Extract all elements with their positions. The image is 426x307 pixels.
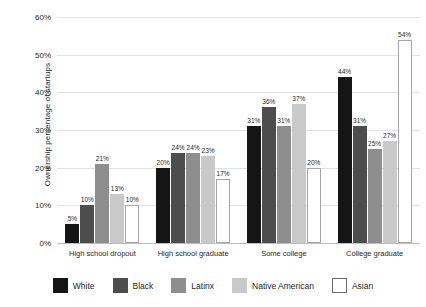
bar[interactable] [307,168,321,243]
bar-value-label: 24% [187,145,200,152]
bar-slot: 20% [156,17,170,243]
bar-value-label: 13% [111,186,124,193]
bar-slot: 31% [277,17,291,243]
legend-item[interactable]: Black [113,278,154,293]
bar-value-label: 31% [247,118,260,125]
bar-value-label: 36% [262,99,275,106]
x-category-label: College graduate [346,249,403,258]
legend-item[interactable]: Native American [232,278,314,293]
bar-value-label: 31% [277,118,290,125]
x-category-label: High school dropout [69,249,136,258]
bar-slot: 13% [110,17,124,243]
chart-legend: WhiteBlackLatinxNative AmericanAsian [0,278,426,293]
bar-value-label: 5% [68,216,77,223]
bar-slot: 17% [216,17,230,243]
y-tick-label: 50% [35,50,51,59]
bar-slot: 21% [95,17,109,243]
bar-slot: 20% [307,17,321,243]
bar-slot: 44% [338,17,352,243]
legend-label: Black [133,281,154,291]
x-category-label: Some college [261,249,306,258]
bar-value-label: 21% [96,156,109,163]
bar[interactable] [292,104,306,243]
bar[interactable] [125,205,139,243]
bar-value-label: 24% [172,145,185,152]
legend-swatch [113,278,128,293]
bar[interactable] [80,205,94,243]
bar-value-label: 20% [307,160,320,167]
legend-label: Latinx [191,281,214,291]
bar[interactable] [65,224,79,243]
bar[interactable] [247,126,261,243]
y-tick-label: 40% [35,88,51,97]
bar-slot: 5% [65,17,79,243]
bar-value-label: 10% [81,197,94,204]
bar[interactable] [353,126,367,243]
legend-item[interactable]: Latinx [171,278,214,293]
bar-slot: 24% [186,17,200,243]
bar[interactable] [110,194,124,243]
bar[interactable] [383,141,397,243]
bar-value-label: 27% [383,133,396,140]
legend-swatch [232,278,247,293]
bar-slot: 10% [80,17,94,243]
bar-slot: 36% [262,17,276,243]
bar-slot: 31% [353,17,367,243]
bar[interactable] [216,179,230,243]
bar-value-label: 23% [202,148,215,155]
legend-swatch [332,278,347,293]
bar[interactable] [262,107,276,243]
bar-slot: 24% [171,17,185,243]
bar[interactable] [171,153,185,243]
bar[interactable] [201,156,215,243]
y-tick-label: 20% [35,163,51,172]
bar[interactable] [368,149,382,243]
bar[interactable] [338,77,352,243]
bar-slot: 37% [292,17,306,243]
bar-group: 44%31%25%27%54% [338,17,412,243]
legend-item[interactable]: White [53,278,95,293]
y-tick-label: 30% [35,126,51,135]
x-axis-baseline: 0% [57,243,420,244]
bar[interactable] [95,164,109,243]
legend-label: White [73,281,95,291]
bar-value-label: 37% [292,96,305,103]
bar-value-label: 20% [157,160,170,167]
legend-swatch [171,278,186,293]
bar[interactable] [398,40,412,243]
bar[interactable] [186,153,200,243]
bar-slot: 10% [125,17,139,243]
y-tick-label: 10% [35,201,51,210]
bar-slot: 31% [247,17,261,243]
legend-label: Native American [252,281,314,291]
bar-value-label: 31% [353,118,366,125]
bar-group: 20%24%24%23%17% [156,17,230,243]
bar-group: 5%10%21%13%10% [65,17,139,243]
bar-value-label: 10% [126,197,139,204]
bar-group: 31%36%31%37%20% [247,17,321,243]
legend-swatch [53,278,68,293]
bar-slot: 25% [368,17,382,243]
legend-item[interactable]: Asian [332,278,373,293]
legend-label: Asian [352,281,373,291]
bar-slot: 54% [398,17,412,243]
plot-area: 0%10%20%30%40%50%60%5%10%21%13%10%20%24%… [57,17,420,243]
bar-value-label: 17% [217,171,230,178]
bar[interactable] [277,126,291,243]
y-tick-label: 60% [35,13,51,22]
y-tick-label: 0% [39,239,51,248]
bar-value-label: 25% [368,141,381,148]
bar-value-label: 44% [338,69,351,76]
bar[interactable] [156,168,170,243]
x-category-label: High school graduate [158,249,229,258]
bar-slot: 23% [201,17,215,243]
bar-value-label: 54% [398,32,411,39]
bar-chart: Ownership percentage of startups 0%10%20… [0,0,426,307]
bar-slot: 27% [383,17,397,243]
